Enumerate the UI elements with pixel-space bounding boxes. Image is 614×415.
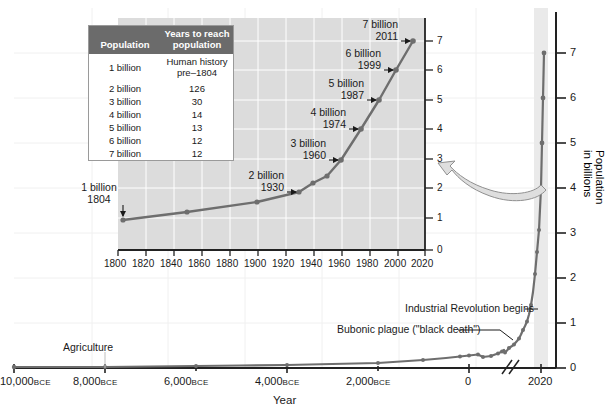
table-cell-years: 12 [161,134,233,147]
inset-xtick-1860: 1860 [188,258,210,269]
main-ytick-0: 0 [570,361,576,373]
annotation-agriculture: Agriculture [63,341,113,353]
table-row: 3 billion 30 [89,95,233,108]
main-y-axis-title: Population in billions [582,150,606,204]
main-ytick-2: 2 [570,271,576,283]
population-figure: Population Years to reach population 1 b… [0,0,614,415]
main-xtick-2020: 2020 [528,375,552,387]
inset-xtick-1920: 1920 [272,258,294,269]
table-header-population: Population [89,26,161,54]
table-cell-population: 3 billion [89,95,161,108]
main-xtick-4000-bce: 4,000BCE [255,375,300,387]
inset-xtick-1820: 1820 [132,258,154,269]
inset-annotation-2billion: 2 billion 1930 [210,170,284,193]
table-cell-population: 7 billion [89,147,161,160]
inset-ytick-5: 5 [437,94,443,105]
table-cell-population: 5 billion [89,121,161,134]
main-ytick-4: 4 [570,181,576,193]
inset-xtick-1840: 1840 [160,258,182,269]
main-xtick-10000-bce: 10,000BCE [0,375,51,387]
inset-xtick-1960: 1960 [328,258,350,269]
table-cell-population: 4 billion [89,108,161,121]
table-cell-years: 30 [161,95,233,108]
main-xtick-6000-bce: 6,000BCE [164,375,209,387]
main-ytick-7: 7 [570,46,576,58]
table-row: 2 billion 126 [89,82,233,95]
main-ytick-3: 3 [570,226,576,238]
inset-ytick-4: 4 [437,123,443,134]
main-xtick-8000-bce: 8,000BCE [73,375,118,387]
inset-xtick-1800: 1800 [104,258,126,269]
main-xtick-0: 0 [465,375,471,387]
inset-annotation-6billion: 6 billion 1999 [307,48,381,71]
inset-xtick-2000: 2000 [384,258,406,269]
main-ytick-6: 6 [570,91,576,103]
population-milestones-table: Population Years to reach population 1 b… [88,25,234,161]
table-cell-years: Human history pre–1804 [161,54,233,82]
inset-xtick-1880: 1880 [216,258,238,269]
annotation-industrial-revolution: Industrial Revolution begins [405,303,534,315]
inset-ytick-6: 6 [437,64,443,75]
inset-ytick-0: 0 [437,244,443,255]
inset-ytick-1: 1 [437,212,443,223]
table-cell-years: 126 [161,82,233,95]
inset-annotation-4billion: 4 billion 1974 [272,107,346,130]
inset-xtick-2020: 2020 [411,258,433,269]
inset-ytick-7: 7 [437,35,443,46]
inset-annotation-1billion: 1 billion 1804 [69,182,129,205]
inset-ytick-3: 3 [437,153,443,164]
inset-xtick-1940: 1940 [300,258,322,269]
inset-annotation-3billion: 3 billion 1960 [252,138,326,161]
table-row: 6 billion 12 [89,134,233,147]
inset-ytick-2: 2 [437,182,443,193]
inset-annotation-7billion: 7 billion 2011 [324,19,398,42]
table-header-years: Years to reach population [161,26,233,54]
table-cell-population: 6 billion [89,134,161,147]
main-ytick-1: 1 [570,316,576,328]
table-row: 4 billion 14 [89,108,233,121]
main-ytick-5: 5 [570,136,576,148]
table-cell-years: 13 [161,121,233,134]
table-cell-population: 1 billion [89,54,161,82]
table-cell-years: 14 [161,108,233,121]
main-x-axis-title: Year [273,394,296,406]
zoom-callout-arrow [438,161,546,201]
table-row: 7 billion 12 [89,147,233,160]
inset-xtick-1980: 1980 [356,258,378,269]
inset-xtick-1900: 1900 [244,258,266,269]
table-row: 1 billion Human history pre–1804 [89,54,233,82]
table-row: 5 billion 13 [89,121,233,134]
table-cell-population: 2 billion [89,82,161,95]
annotation-bubonic-plague: Bubonic plague ("black death") [337,324,480,336]
main-xtick-2000-bce: 2,000BCE [346,375,391,387]
table-cell-years: 12 [161,147,233,160]
inset-annotation-5billion: 5 billion 1987 [290,78,364,101]
